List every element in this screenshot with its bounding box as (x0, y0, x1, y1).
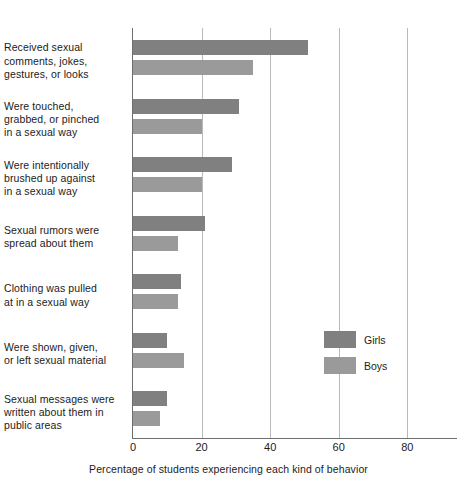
chart-legend: GirlsBoys (324, 330, 434, 382)
category-label-line: Were touched, (4, 100, 122, 113)
category-label-column: Received sexualcomments, jokes,gestures,… (0, 28, 128, 438)
gridline (270, 28, 271, 438)
category-label-line: Were intentionally (4, 159, 122, 172)
bar-boys-6 (133, 411, 160, 426)
category-label-line: Received sexual (4, 41, 122, 54)
x-axis-tick-labels: 020406080 (133, 441, 457, 457)
legend-swatch-boys (324, 357, 356, 374)
category-label-line: public areas (4, 419, 122, 432)
bar-boys-5 (133, 353, 184, 368)
legend-swatch-girls (324, 331, 356, 348)
bar-boys-3 (133, 236, 178, 251)
bar-chart: Received sexualcomments, jokes,gestures,… (0, 0, 457, 491)
category-label-2: Were intentionallybrushed up againstin a… (4, 159, 122, 199)
category-label-line: grabbed, or pinched (4, 113, 122, 126)
category-label-line: gestures, or looks (4, 68, 122, 81)
bar-girls-6 (133, 391, 167, 406)
category-label-line: in a sexual way (4, 185, 122, 198)
category-label-4: Clothing was pulledat in a sexual way (4, 282, 122, 308)
bar-boys-1 (133, 119, 202, 134)
bar-boys-4 (133, 294, 178, 309)
category-label-1: Were touched,grabbed, or pinchedin a sex… (4, 100, 122, 140)
x-tick-label: 0 (130, 441, 136, 453)
category-label-line: brushed up against (4, 172, 122, 185)
category-label-line: or left sexual material (4, 354, 122, 367)
category-label-3: Sexual rumors werespread about them (4, 224, 122, 250)
bar-girls-3 (133, 216, 205, 231)
category-label-line: Were shown, given, (4, 341, 122, 354)
category-label-6: Sexual messages werewritten about them i… (4, 393, 122, 433)
x-tick-label: 60 (333, 441, 345, 453)
x-tick-label: 40 (264, 441, 276, 453)
gridline (202, 28, 203, 438)
x-axis-title: Percentage of students experiencing each… (0, 463, 457, 475)
category-label-line: Sexual messages were (4, 393, 122, 406)
y-axis-line (132, 28, 133, 438)
category-label-5: Were shown, given,or left sexual materia… (4, 341, 122, 367)
category-label-line: in a sexual way (4, 126, 122, 139)
legend-label: Girls (364, 334, 386, 346)
x-tick-label: 80 (401, 441, 413, 453)
category-label-line: at in a sexual way (4, 296, 122, 309)
legend-item-girls: Girls (324, 330, 434, 349)
bar-girls-5 (133, 333, 167, 348)
bar-boys-2 (133, 177, 202, 192)
category-label-line: spread about them (4, 237, 122, 250)
category-label-line: written about them in (4, 406, 122, 419)
category-label-line: comments, jokes, (4, 55, 122, 68)
bar-girls-4 (133, 274, 181, 289)
x-tick-label: 20 (195, 441, 207, 453)
category-label-line: Sexual rumors were (4, 224, 122, 237)
bar-girls-1 (133, 99, 239, 114)
category-label-line: Clothing was pulled (4, 282, 122, 295)
x-axis-line (132, 438, 457, 439)
bar-boys-0 (133, 60, 253, 75)
category-label-0: Received sexualcomments, jokes,gestures,… (4, 41, 122, 81)
bar-girls-0 (133, 40, 308, 55)
bar-girls-2 (133, 157, 232, 172)
legend-item-boys: Boys (324, 356, 434, 375)
legend-label: Boys (364, 360, 387, 372)
